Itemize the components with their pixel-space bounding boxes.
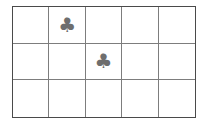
grid-cell-r3c5[interactable] xyxy=(159,80,195,117)
grid-cell-r1c2[interactable]: ♣ xyxy=(49,7,85,44)
grid-cell-r2c2[interactable] xyxy=(49,44,85,81)
grid-cell-r3c3[interactable] xyxy=(86,80,122,117)
grid-cell-r3c4[interactable] xyxy=(122,80,158,117)
grid-cell-r1c4[interactable] xyxy=(122,7,158,44)
worksheet-canvas: ♣ ♣ xyxy=(0,0,205,124)
grid-cell-r3c1[interactable] xyxy=(13,80,49,117)
grid-cell-r1c5[interactable] xyxy=(159,7,195,44)
club-icon: ♣ xyxy=(95,51,113,71)
club-icon: ♣ xyxy=(58,14,76,34)
grid-cell-r1c3[interactable] xyxy=(86,7,122,44)
symbol-grid: ♣ ♣ xyxy=(12,6,196,118)
grid-cell-r2c3[interactable]: ♣ xyxy=(86,44,122,81)
grid-cell-r2c1[interactable] xyxy=(13,44,49,81)
grid-cell-r1c1[interactable] xyxy=(13,7,49,44)
grid-cell-r2c5[interactable] xyxy=(159,44,195,81)
grid-cell-r3c2[interactable] xyxy=(49,80,85,117)
grid-cell-r2c4[interactable] xyxy=(122,44,158,81)
